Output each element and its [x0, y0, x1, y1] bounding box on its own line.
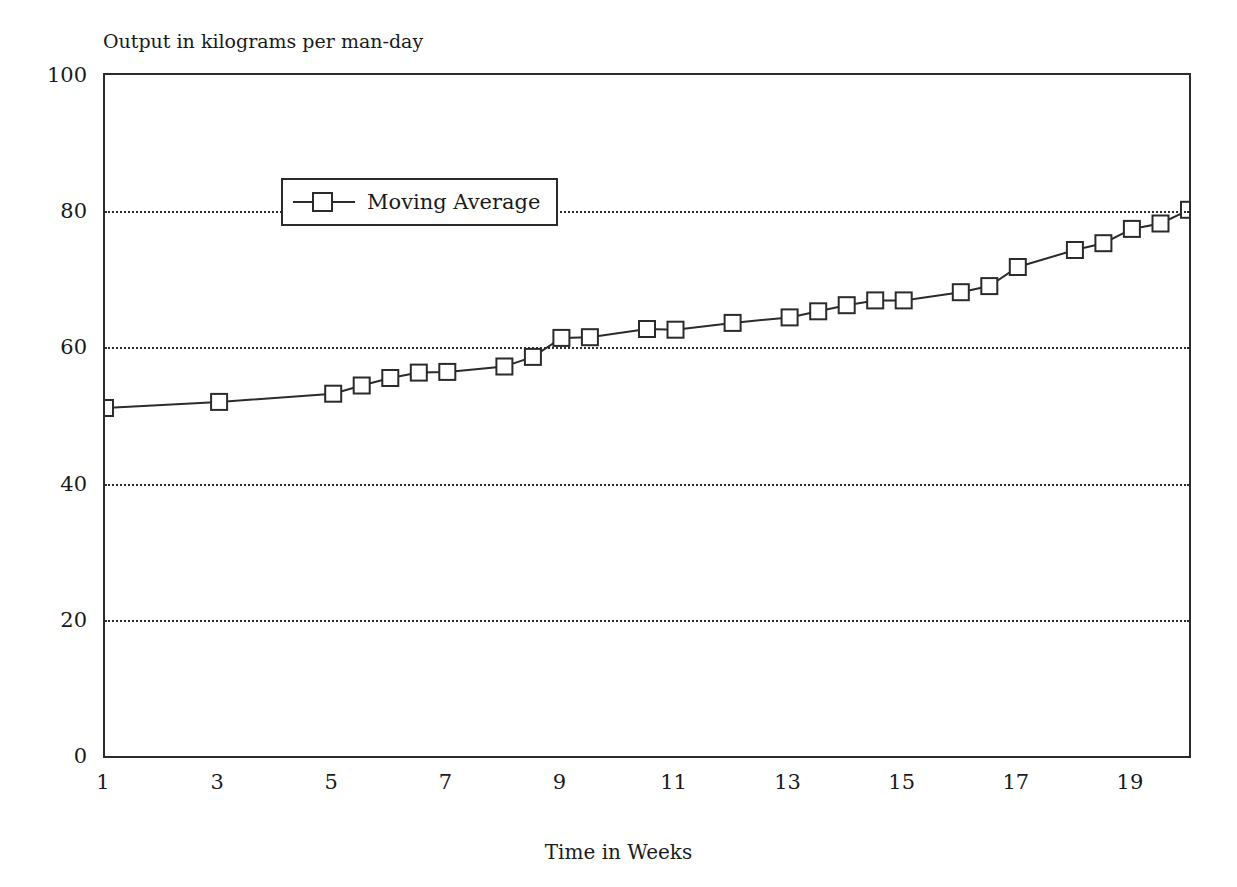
- y-axis-caption: Output in kilograms per man-day: [103, 30, 423, 52]
- data-point-marker: [725, 315, 741, 331]
- plot-area: Moving Average: [103, 73, 1191, 758]
- x-tick-label: 19: [1117, 772, 1144, 793]
- x-tick-label: 13: [774, 772, 801, 793]
- y-tick-label: 100: [9, 65, 87, 86]
- gridline: [105, 211, 1189, 213]
- data-point-marker: [668, 322, 684, 338]
- data-point-marker: [782, 309, 798, 325]
- chart-title-cropped: [0, 0, 1237, 6]
- x-tick-label: 15: [888, 772, 915, 793]
- series-line: [105, 210, 1189, 408]
- chart-legend: Moving Average: [281, 178, 558, 226]
- x-tick-label: 7: [439, 772, 452, 793]
- gridline: [105, 347, 1189, 349]
- data-point-marker: [439, 364, 455, 380]
- data-point-marker: [105, 400, 113, 416]
- data-point-marker: [582, 329, 598, 345]
- y-tick-label: 40: [9, 473, 87, 494]
- data-point-marker: [325, 386, 341, 402]
- gridline: [105, 620, 1189, 622]
- data-point-marker: [1181, 202, 1189, 218]
- data-point-marker: [1124, 221, 1140, 237]
- x-axis-caption: Time in Weeks: [0, 840, 1237, 864]
- data-point-marker: [953, 284, 969, 300]
- data-point-marker: [867, 292, 883, 308]
- y-tick-label: 0: [9, 746, 87, 767]
- y-tick-label: 20: [9, 609, 87, 630]
- data-point-marker: [411, 365, 427, 381]
- data-point-marker: [896, 292, 912, 308]
- legend-marker-icon: [293, 191, 355, 213]
- y-axis-tick-labels: 020406080100: [0, 73, 87, 758]
- data-point-marker: [1067, 242, 1083, 258]
- x-tick-label: 1: [96, 772, 109, 793]
- chart-figure: Output in kilograms per man-day 02040608…: [0, 0, 1237, 887]
- x-axis-tick-labels: 135791113151719: [103, 772, 1191, 806]
- x-tick-label: 5: [325, 772, 338, 793]
- data-point-marker: [981, 278, 997, 294]
- x-tick-label: 9: [553, 772, 566, 793]
- legend-entry-label: Moving Average: [367, 192, 540, 213]
- data-point-marker: [810, 303, 826, 319]
- data-point-marker: [639, 321, 655, 337]
- gridline: [105, 484, 1189, 486]
- y-tick-label: 80: [9, 201, 87, 222]
- data-series-moving-average: [105, 75, 1189, 756]
- data-point-marker: [839, 297, 855, 313]
- data-point-marker: [525, 349, 541, 365]
- data-point-marker: [382, 370, 398, 386]
- data-point-marker: [553, 330, 569, 346]
- data-point-marker: [354, 378, 370, 394]
- data-point-marker: [211, 394, 227, 410]
- data-point-marker: [1095, 235, 1111, 251]
- x-tick-label: 3: [210, 772, 223, 793]
- x-tick-label: 17: [1002, 772, 1029, 793]
- x-tick-label: 11: [660, 772, 687, 793]
- data-point-marker: [496, 359, 512, 375]
- data-point-marker: [1153, 216, 1169, 232]
- y-tick-label: 60: [9, 337, 87, 358]
- data-point-marker: [1010, 259, 1026, 275]
